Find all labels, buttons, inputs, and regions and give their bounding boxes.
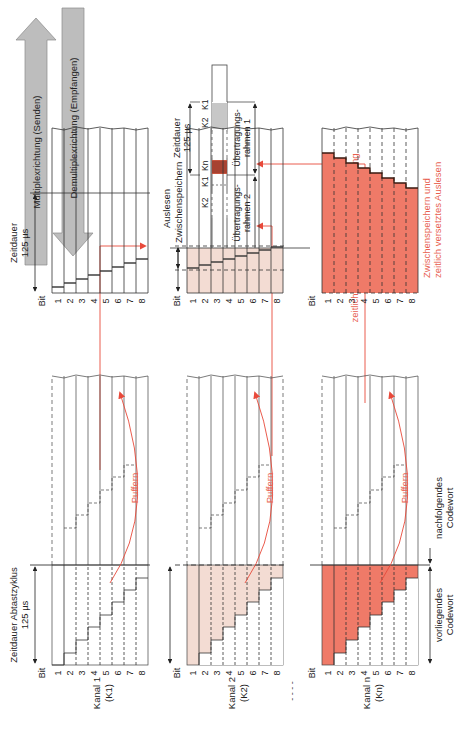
bit-number: 4 — [89, 670, 99, 675]
sampling-cycle-label: Zeitdauer Abtastzyklus — [8, 567, 19, 663]
svg-text:2: 2 — [65, 298, 75, 303]
svg-text:6: 6 — [383, 298, 393, 303]
svg-text:6: 6 — [113, 298, 123, 303]
ellipsis-indicator: - - - - — [287, 681, 297, 701]
readout-label: Auslesen — [161, 189, 172, 228]
bit-number: 6 — [113, 670, 123, 675]
buffer-label: Puffern — [264, 473, 275, 503]
channel-label: Kanal n — [361, 677, 372, 709]
svg-text:5: 5 — [371, 298, 381, 303]
svg-text:1: 1 — [188, 670, 198, 675]
svg-text:6: 6 — [248, 670, 258, 675]
channel-abbrev: (Kn) — [373, 684, 384, 702]
svg-text:2: 2 — [200, 670, 210, 675]
sampling-cycle-value: 125 µs — [19, 600, 30, 629]
bit-number: 7 — [125, 670, 135, 675]
svg-text:4: 4 — [224, 670, 234, 675]
svg-text:8: 8 — [272, 670, 282, 675]
svg-text:2: 2 — [200, 298, 210, 303]
svg-text:7: 7 — [395, 298, 405, 303]
svg-text:4: 4 — [359, 298, 369, 303]
shifted-readout-label: Zwischenspeichern und — [421, 178, 432, 278]
slot-label: Kn — [200, 160, 210, 171]
frame1-label-line1: Übertragungs- — [232, 109, 242, 167]
svg-text:4: 4 — [359, 670, 369, 675]
svg-text:Bit: Bit — [172, 667, 182, 678]
channel-label: Kanal 1 — [91, 677, 102, 709]
svg-text:7: 7 — [260, 670, 270, 675]
svg-text:4: 4 — [89, 298, 99, 303]
buffer-label: Puffern — [129, 473, 140, 503]
svg-text:Bit: Bit — [307, 295, 317, 306]
current-codeword-label: vorliegendes — [433, 588, 444, 642]
frame-duration-value: 125 µs — [181, 123, 192, 152]
bit-axis-label: Bit — [37, 295, 47, 306]
svg-text:6: 6 — [248, 298, 258, 303]
svg-text:3: 3 — [212, 298, 222, 303]
svg-text:8: 8 — [272, 298, 282, 303]
frame2-label-line1: Übertragungs- — [232, 184, 242, 242]
slot-label: K1 — [200, 176, 210, 187]
multiplex-label: Multiplexrichtung (Senden) — [31, 95, 42, 208]
channel-label: Kanal 2 — [226, 677, 237, 709]
bit-number: 8 — [137, 670, 147, 675]
svg-text:7: 7 — [260, 298, 270, 303]
svg-text:3: 3 — [212, 670, 222, 675]
channel-abbrev: (K2) — [238, 684, 249, 702]
svg-text:2: 2 — [335, 670, 345, 675]
intermediate-storage-label: Zwischenspeichern — [173, 162, 184, 243]
frame1-kn-bits — [212, 160, 227, 174]
bit-number: 5 — [101, 670, 111, 675]
channel-abbrev: (K1) — [103, 684, 114, 702]
next-codeword-label-2: Codewort — [444, 487, 455, 528]
svg-text:Bit: Bit — [172, 295, 182, 306]
svg-text:7: 7 — [395, 670, 405, 675]
svg-text:2: 2 — [335, 298, 345, 303]
next-codeword-label: nachfolgendes — [433, 477, 444, 539]
svg-text:8: 8 — [407, 298, 417, 303]
svg-text:5: 5 — [236, 670, 246, 675]
readout-duration-value: 125 µs — [19, 228, 30, 257]
bit-number: 2 — [65, 670, 75, 675]
readout-duration-label: Zeitdauer — [8, 223, 19, 263]
bit-number: 1 — [53, 670, 63, 675]
svg-text:8: 8 — [407, 670, 417, 675]
svg-text:3: 3 — [77, 298, 87, 303]
svg-text:3: 3 — [347, 298, 357, 303]
shifted-readout-label-2: zeitlich versetztes Auslesen — [432, 162, 443, 278]
svg-text:1: 1 — [188, 298, 198, 303]
svg-text:1: 1 — [323, 670, 333, 675]
svg-text:1: 1 — [53, 298, 63, 303]
tdm-diagram: Multiplexrichtung (Senden) Demultiplexri… — [0, 0, 456, 748]
slot-label: K2 — [200, 197, 210, 208]
svg-text:5: 5 — [236, 298, 246, 303]
current-codeword-label-2: Codewort — [444, 594, 455, 635]
slot-label: K2 — [200, 117, 210, 128]
svg-text:6: 6 — [383, 670, 393, 675]
svg-text:7: 7 — [125, 298, 135, 303]
bit-number: 3 — [77, 670, 87, 675]
svg-text:1: 1 — [323, 298, 333, 303]
svg-text:4: 4 — [224, 298, 234, 303]
svg-text:5: 5 — [101, 298, 111, 303]
frame1-k1k2-bits — [212, 102, 227, 130]
svg-text:3: 3 — [347, 670, 357, 675]
buffer-label: Puffern — [399, 473, 410, 503]
svg-text:Bit: Bit — [307, 667, 317, 678]
svg-text:8: 8 — [137, 298, 147, 303]
bit-axis-label: Bit — [37, 667, 47, 678]
slot-label: K1 — [200, 99, 210, 110]
svg-text:5: 5 — [371, 670, 381, 675]
